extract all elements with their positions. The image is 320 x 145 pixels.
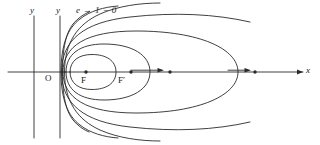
focus-dot-mid (168, 70, 171, 73)
focus-dot-right (253, 70, 256, 73)
conic-curve-6 (63, 12, 90, 72)
x-axis-arrowhead (297, 70, 303, 75)
x-axis-label: x (306, 66, 310, 75)
conic-curve-4 (62, 14, 251, 72)
y-axis-left-label: y (30, 6, 34, 15)
focus-label-F: F (81, 76, 86, 85)
focus-dot-F-prime (129, 70, 132, 73)
conic-curve-5-lower (61, 72, 118, 138)
conic-family-figure: y y e → 1 − 0 O F F′ x (0, 0, 320, 145)
conic-curve-4-lower (62, 72, 251, 130)
origin-label: O (45, 74, 52, 83)
conic-curve-5 (61, 6, 118, 72)
focus-label-F-prime: F′ (118, 76, 125, 85)
focus-dot-F (84, 70, 87, 73)
eccentricity-limit-label: e → 1 − 0 (76, 6, 117, 15)
y-axis-right-label: y (56, 6, 60, 15)
